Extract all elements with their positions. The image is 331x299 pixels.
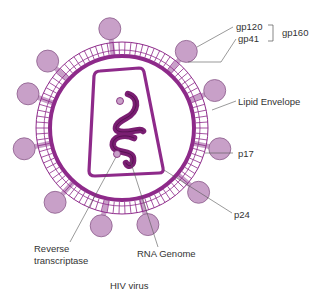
reverse-transcriptase-lower [114, 151, 121, 158]
gp160-bracket [268, 25, 273, 41]
label-gp41: gp41 [238, 33, 259, 44]
label-gp160: gp160 [282, 27, 308, 38]
reverse-transcriptase-upper [117, 98, 124, 105]
label-p17: p17 [238, 148, 254, 159]
figure-title: HIV virus [110, 280, 149, 291]
label-gp120: gp120 [236, 21, 262, 32]
label-reverse-transcriptase-1: Reverse [34, 243, 69, 254]
label-rna-genome: RNA Genome [137, 248, 196, 259]
label-reverse-transcriptase-2: transcriptase [34, 255, 88, 266]
label-p24: p24 [234, 209, 250, 220]
label-lipid-envelope: Lipid Envelope [238, 96, 300, 107]
